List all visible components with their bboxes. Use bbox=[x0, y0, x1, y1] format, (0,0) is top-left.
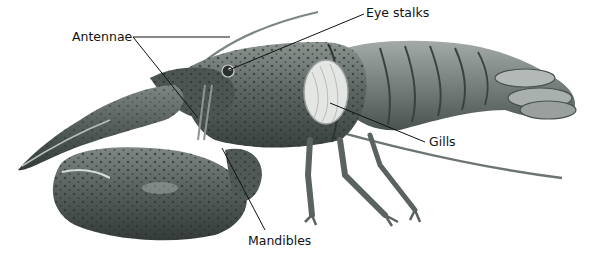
gills bbox=[304, 60, 348, 124]
label-gills: Gills bbox=[429, 136, 456, 149]
lobster-tail bbox=[340, 41, 576, 130]
label-eye-stalks: Eye stalks bbox=[366, 7, 429, 20]
label-antennae: Antennae bbox=[72, 31, 132, 44]
crusher-claw bbox=[53, 147, 262, 240]
eye bbox=[222, 65, 234, 77]
label-mandibles: Mandibles bbox=[248, 235, 311, 248]
